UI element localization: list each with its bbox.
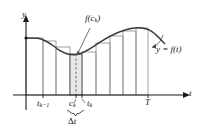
ck-subscript: k [73, 102, 76, 108]
right-endpoint-label: tk [87, 99, 92, 108]
delta-t-var: t [74, 116, 77, 126]
delta-t-label: Δt [68, 117, 76, 126]
tk-subscript: k [90, 102, 93, 108]
function-value-label: f(ck) [85, 14, 100, 23]
rectangle-8 [123, 31, 136, 95]
tkm1-subscript: k−1 [40, 102, 50, 108]
rectangle-1 [26, 38, 43, 95]
figure-container: y t T f(ck) y = f(t) tk−1 ck tk Δt [0, 0, 201, 139]
riemann-rectangles [26, 28, 148, 95]
t-axis-label: t [189, 89, 192, 98]
y-axis-label: y [22, 10, 26, 19]
rectangle-7 [110, 36, 123, 95]
rectangle-5 [82, 52, 96, 95]
rectangle-2 [43, 41, 56, 95]
rectangle-6 [96, 43, 110, 95]
fck-close-paren: ) [97, 13, 100, 23]
riemann-sum-figure [0, 0, 201, 139]
fck-text: f(c [85, 13, 95, 23]
leader-tick-tk [82, 99, 85, 103]
curve-equation-label: y = f(t) [156, 45, 182, 54]
rectangle-9 [136, 28, 148, 95]
function-curve [26, 28, 165, 55]
sample-point-label: ck [69, 99, 76, 108]
upper-limit-label-T: T [145, 98, 150, 107]
left-endpoint-label: tk−1 [37, 99, 49, 108]
